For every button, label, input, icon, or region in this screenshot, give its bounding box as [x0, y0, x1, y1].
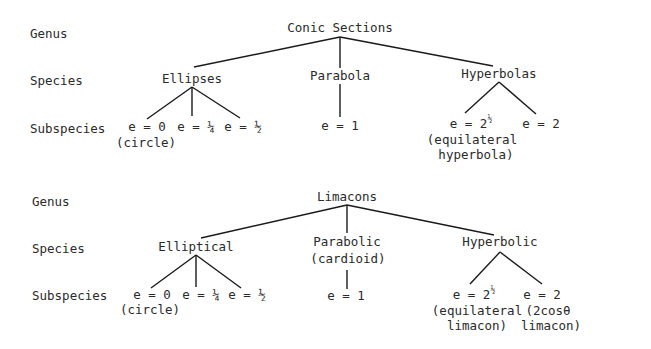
level-label-species: Species: [30, 73, 83, 88]
edge-hyperbolas-esqrt2: [465, 82, 499, 113]
edge-elliptical-e12: [196, 255, 241, 288]
taxonomy-diagram: Genus Species Subspecies Conic Sections …: [0, 0, 651, 349]
node-hyperbolic-esqrt2-label: e = 2: [453, 287, 491, 302]
node-hyperbolic-esqrt2-note2: limacon): [447, 318, 507, 333]
level-label-genus-2: Genus: [32, 194, 70, 209]
node-hyperbolic-esqrt2-note1: (equilateral: [432, 303, 522, 318]
level-label-subspecies: Subspecies: [30, 121, 105, 136]
level-label-species-2: Species: [32, 241, 85, 256]
edge-limacons-hyperbolic: [347, 205, 494, 235]
node-elliptical: Elliptical: [158, 239, 233, 254]
node-ellipses-e0-note: (circle): [116, 135, 176, 150]
node-hyperbolas-esqrt2-label: e = 2: [450, 116, 488, 131]
level-label-subspecies-2: Subspecies: [32, 288, 107, 303]
node-hyperbolas-esqrt2-exponent: ½: [487, 115, 492, 124]
edge-conic-hyperbolas: [340, 37, 493, 66]
node-hyperbolic-esqrt2-exponent: ½: [490, 286, 495, 295]
node-parabolic: Parabolic: [313, 234, 381, 249]
node-hyperbolas-esqrt2-note1: (equilateral: [427, 132, 517, 147]
node-elliptical-e14: e = ¼: [182, 287, 220, 302]
node-elliptical-e12: e = ½: [228, 287, 266, 302]
node-hyperbolic-e2: e = 2: [523, 287, 561, 302]
level-label-genus: Genus: [30, 26, 68, 41]
edge-ellipses-e0: [147, 87, 192, 119]
node-parabolic-e1: e = 1: [327, 288, 365, 303]
node-hyperbolic: Hyperbolic: [462, 234, 537, 249]
node-hyperbolic-e2-note2: limacon): [521, 318, 581, 333]
node-root-conic-sections: Conic Sections: [287, 20, 392, 35]
node-ellipses-e14: e = ¼: [177, 119, 215, 134]
node-root-limacons: Limacons: [317, 189, 377, 204]
edge-ellipses-e12: [192, 87, 240, 118]
edge-conic-ellipses: [194, 37, 340, 67]
node-hyperbolas: Hyperbolas: [461, 66, 536, 81]
node-ellipses-e0: e = 0: [128, 119, 166, 134]
edge-hyperbolas-e2: [499, 82, 536, 114]
node-parabola-e1: e = 1: [321, 118, 359, 133]
node-hyperbolas-e2: e = 2: [522, 116, 560, 131]
node-parabola: Parabola: [310, 68, 370, 83]
node-hyperbolas-esqrt2: e = 2½: [450, 116, 492, 131]
node-parabolic-note: (cardioid): [310, 251, 385, 266]
node-ellipses-e12: e = ½: [224, 119, 262, 134]
node-hyperbolas-esqrt2-note2: hyperbola): [438, 147, 513, 162]
edge-elliptical-e0: [151, 255, 196, 288]
node-ellipses: Ellipses: [162, 71, 222, 86]
node-elliptical-e0-note: (circle): [120, 302, 180, 317]
node-elliptical-e0: e = 0: [133, 287, 171, 302]
node-hyperbolic-e2-note1: (2cosθ: [525, 303, 570, 318]
edge-hyperbolic-e2: [500, 252, 542, 284]
node-hyperbolic-esqrt2: e = 2½: [453, 287, 495, 302]
edge-hyperbolic-esqrt2: [470, 252, 500, 284]
